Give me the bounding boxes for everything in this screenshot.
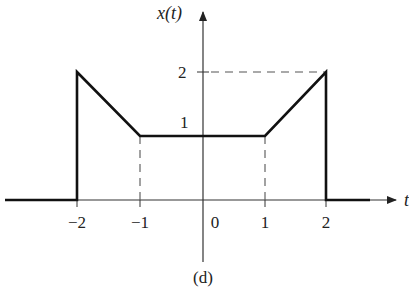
figure-caption: (d) xyxy=(193,268,213,287)
y-tick-label-1: 1 xyxy=(180,113,189,132)
x-tick-label-1: 1 xyxy=(261,213,270,232)
y-tick-label-2: 2 xyxy=(178,63,187,82)
x-tick-marks xyxy=(77,200,326,207)
x-tick-label-neg1: −1 xyxy=(131,213,149,232)
y-axis-label: x(t) xyxy=(156,3,182,24)
x-tick-label-neg2: −2 xyxy=(68,213,86,232)
signal-plot: x(t) t 2 1 −2 −1 0 1 2 (d) xyxy=(0,0,409,293)
x-tick-label-2: 2 xyxy=(322,213,331,232)
x-tick-label-0: 0 xyxy=(211,213,220,232)
x-axis-label: t xyxy=(404,190,409,210)
signal-waveform xyxy=(5,72,370,200)
